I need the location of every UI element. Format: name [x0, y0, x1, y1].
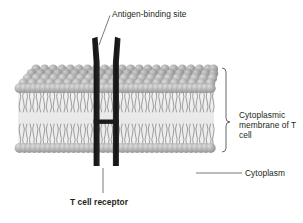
label-t-cell-receptor: T cell receptor	[70, 197, 128, 207]
label-cytoplasm: Cytoplasm	[245, 168, 285, 178]
receptor-crossbar	[94, 120, 119, 124]
leader-antigen-binding-site	[99, 16, 110, 46]
label-antigen-binding-site: Antigen-binding site	[112, 9, 187, 19]
brace-cytoplasmic-membrane	[222, 68, 230, 152]
label-cytoplasmic-membrane: Cytoplasmic membrane of T cell	[239, 110, 303, 141]
